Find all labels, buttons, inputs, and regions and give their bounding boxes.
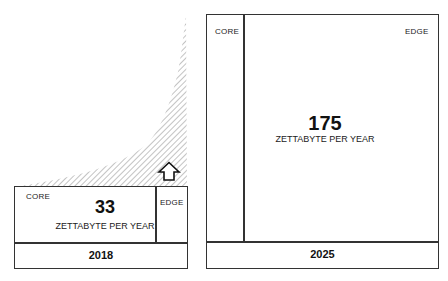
value-2018: 33 [60,197,150,218]
arrow-up-icon [157,161,181,182]
year-2025: 2025 [206,248,439,260]
unit-2025: ZETTABYTE PER YEAR [265,134,385,144]
edge-label-2025: EDGE [405,27,428,36]
core-label-2018: CORE [26,192,50,201]
core-divider-2025 [243,14,245,242]
edge-divider-2018 [155,186,157,243]
year-divider-2018 [14,242,188,244]
core-label-2025: CORE [215,27,239,36]
year-divider-2025 [206,241,439,243]
edge-label-2018: EDGE [160,198,183,207]
unit-2018: ZETTABYTE PER YEAR [50,221,160,231]
value-2025: 175 [280,112,370,135]
year-2018: 2018 [14,249,188,261]
